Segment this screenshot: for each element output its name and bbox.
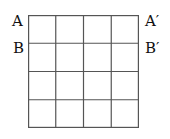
label-a-prime: A′ — [145, 14, 159, 29]
label-b: B — [13, 41, 24, 56]
label-b-prime: B′ — [145, 41, 159, 56]
square-grid — [28, 15, 139, 128]
grid-lines — [28, 15, 139, 128]
label-a: A — [12, 14, 23, 29]
